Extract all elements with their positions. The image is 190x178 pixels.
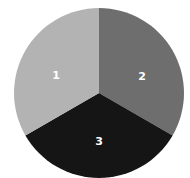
slice-label-2: 2 <box>138 70 146 83</box>
slice-label-3: 3 <box>95 135 103 148</box>
pie-chart: 1 2 3 <box>0 0 190 178</box>
slice-label-1: 1 <box>52 69 60 82</box>
